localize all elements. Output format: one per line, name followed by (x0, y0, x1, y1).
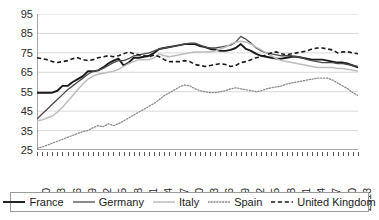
x-tick-mark (169, 152, 170, 156)
x-tick-mark (83, 152, 84, 156)
x-tick-mark (68, 152, 69, 156)
x-tick-mark (98, 152, 99, 156)
legend-label: Italy (179, 196, 199, 208)
legend-item-italy[interactable]: Italy (153, 196, 199, 208)
x-tick-mark (190, 152, 191, 156)
plot-area (37, 14, 358, 150)
legend-swatch-icon (73, 198, 95, 206)
x-tick-mark (353, 152, 354, 156)
x-tick-mark (241, 152, 242, 156)
x-tick-mark (139, 152, 140, 156)
x-tick-mark (47, 152, 48, 156)
x-tick-mark (210, 152, 211, 156)
x-tick-mark (338, 152, 339, 156)
x-tick-mark (159, 152, 160, 156)
x-tick-mark (302, 152, 303, 156)
x-tick-mark (124, 152, 125, 156)
x-tick-mark (358, 152, 359, 156)
x-tick-mark (57, 152, 58, 156)
y-tick-label: 65 (3, 67, 33, 78)
x-tick-mark (42, 152, 43, 156)
x-tick-mark (256, 152, 257, 156)
legend-label: France (29, 196, 63, 208)
series-line-united-kingdom (37, 48, 358, 66)
x-tick-mark (134, 152, 135, 156)
x-tick-mark (88, 152, 89, 156)
legend-item-spain[interactable]: Spain (208, 196, 262, 208)
y-tick-label: 75 (3, 47, 33, 58)
x-tick-mark (297, 152, 298, 156)
x-tick-mark (93, 152, 94, 156)
y-tick-label: 35 (3, 125, 33, 136)
x-tick-mark (73, 152, 74, 156)
x-tick-mark (292, 152, 293, 156)
x-tick-mark (251, 152, 252, 156)
x-tick-mark (175, 152, 176, 156)
x-tick-mark (108, 152, 109, 156)
x-tick-mark (231, 152, 232, 156)
x-tick-mark (333, 152, 334, 156)
x-tick-mark (226, 152, 227, 156)
legend-item-united-kingdom[interactable]: United Kingdom (271, 196, 375, 208)
x-tick-mark (261, 152, 262, 156)
y-axis: 2535455565758595 (0, 14, 33, 150)
x-tick-mark (236, 152, 237, 156)
y-tick-label: 45 (3, 106, 33, 117)
legend-item-germany[interactable]: Germany (73, 196, 144, 208)
legend-swatch-icon (208, 198, 230, 206)
x-tick-mark (185, 152, 186, 156)
series-line-germany (37, 36, 358, 119)
x-tick-mark (343, 152, 344, 156)
x-tick-mark (348, 152, 349, 156)
x-axis: 1950195319561959196219651968197119741977… (37, 152, 358, 190)
chart-legend: FranceGermanyItalySpainUnited Kingdom (10, 192, 369, 212)
y-tick-label: 85 (3, 28, 33, 39)
y-tick-label: 25 (3, 145, 33, 156)
x-tick-mark (119, 152, 120, 156)
x-tick-mark (220, 152, 221, 156)
x-tick-mark (287, 152, 288, 156)
x-tick-mark (276, 152, 277, 156)
x-tick-mark (307, 152, 308, 156)
y-tick-label: 55 (3, 86, 33, 97)
x-tick-mark (317, 152, 318, 156)
x-tick-mark (113, 152, 114, 156)
x-tick-mark (200, 152, 201, 156)
x-tick-mark (149, 152, 150, 156)
x-tick-mark (322, 152, 323, 156)
legend-label: United Kingdom (297, 196, 375, 208)
x-tick-mark (215, 152, 216, 156)
legend-item-france[interactable]: France (3, 196, 63, 208)
legend-label: Germany (99, 196, 144, 208)
x-tick-mark (312, 152, 313, 156)
x-tick-mark (52, 152, 53, 156)
x-tick-mark (246, 152, 247, 156)
x-tick-mark (37, 152, 38, 156)
legend-label: Spain (234, 196, 262, 208)
x-tick-mark (195, 152, 196, 156)
x-tick-mark (129, 152, 130, 156)
x-tick-mark (103, 152, 104, 156)
legend-swatch-icon (271, 198, 293, 206)
x-tick-mark (205, 152, 206, 156)
x-tick-mark (164, 152, 165, 156)
x-tick-mark (266, 152, 267, 156)
chart-figure: 2535455565758595 19501953195619591962196… (0, 0, 379, 220)
x-tick-mark (78, 152, 79, 156)
x-tick-mark (62, 152, 63, 156)
x-tick-mark (180, 152, 181, 156)
series-line-spain (37, 78, 358, 148)
x-tick-mark (282, 152, 283, 156)
x-tick-mark (154, 152, 155, 156)
legend-swatch-icon (153, 198, 175, 206)
x-tick-mark (327, 152, 328, 156)
line-chart-svg (37, 14, 358, 150)
y-tick-label: 95 (3, 9, 33, 20)
x-tick-mark (144, 152, 145, 156)
legend-swatch-icon (3, 198, 25, 206)
x-tick-mark (271, 152, 272, 156)
